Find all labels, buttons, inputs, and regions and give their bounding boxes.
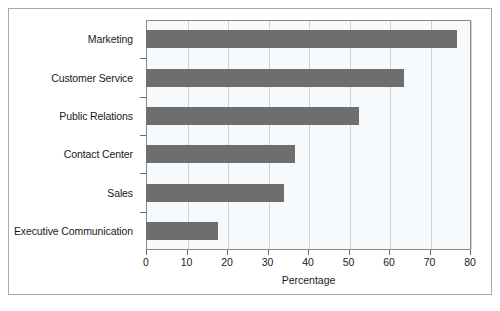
x-axis-tick [470,250,471,255]
x-axis-tick [349,250,350,255]
bar-chart: MarketingCustomer ServicePublic Relation… [0,0,500,311]
x-axis-tick-label: 70 [410,256,450,268]
x-axis-tick-label: 10 [167,256,207,268]
x-axis-tick [227,250,228,255]
bar [146,107,359,125]
bar [146,69,404,87]
x-axis-tick-label: 20 [207,256,247,268]
y-axis-category-labels: MarketingCustomer ServicePublic Relation… [10,20,141,250]
x-axis-tick-label: 50 [329,256,369,268]
y-axis-tick [140,58,146,59]
y-axis-tick [140,97,146,98]
chart-figure: MarketingCustomer ServicePublic Relation… [0,0,500,311]
x-axis-title: Percentage [146,274,471,286]
y-axis-tick [140,212,146,213]
y-axis-category-label: Contact Center [5,148,133,160]
y-axis-tick [140,173,146,174]
bar [146,30,457,48]
x-axis-tick [146,250,147,255]
x-axis-tick [389,250,390,255]
x-axis-tick-label: 80 [450,256,490,268]
bar [146,145,295,163]
gridline [471,21,472,249]
y-axis-category-label: Customer Service [5,72,133,84]
x-axis-tick-label: 0 [126,256,166,268]
bar [146,222,218,240]
x-axis-tick-label: 60 [369,256,409,268]
x-axis-tick [430,250,431,255]
y-axis-category-label: Marketing [5,33,133,45]
x-axis-tick-label: 30 [248,256,288,268]
y-axis-tick [140,135,146,136]
bars-layer [146,20,471,250]
x-axis-tick [308,250,309,255]
x-axis-tick-label: 40 [288,256,328,268]
y-axis-category-label: Sales [5,187,133,199]
bar [146,184,284,202]
y-axis-category-label: Public Relations [5,110,133,122]
y-axis-category-label: Executive Communication [5,225,133,237]
x-axis-tick [268,250,269,255]
x-axis-tick [187,250,188,255]
